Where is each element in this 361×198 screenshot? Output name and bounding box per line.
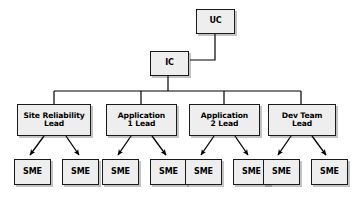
node-uc-label: UC	[209, 17, 221, 25]
node-sme-4[interactable]: SME	[150, 159, 187, 185]
node-sme-6-label: SME	[242, 168, 261, 176]
node-sme-3-label: SME	[111, 168, 130, 176]
node-uc[interactable]: UC	[196, 9, 235, 34]
node-sme-5[interactable]: SME	[185, 159, 222, 185]
node-sme-8[interactable]: SME	[311, 159, 348, 185]
node-sme-8-label: SME	[320, 168, 339, 176]
node-site-reliability-lead[interactable]: Site Reliability Lead	[17, 104, 91, 136]
node-application-2-lead[interactable]: Application 2 Lead	[189, 104, 260, 136]
node-sme-7[interactable]: SME	[263, 159, 300, 185]
node-sme-1[interactable]: SME	[14, 159, 51, 185]
node-sme-4-label: SME	[159, 168, 178, 176]
node-sme-2[interactable]: SME	[62, 159, 99, 185]
node-dev-team-lead-label: Dev Team Lead	[282, 112, 323, 128]
node-dev-team-lead[interactable]: Dev Team Lead	[268, 104, 336, 136]
node-sme-5-label: SME	[194, 168, 213, 176]
node-sme-3[interactable]: SME	[102, 159, 139, 185]
node-ic-label: IC	[165, 59, 174, 67]
node-ic[interactable]: IC	[150, 51, 189, 76]
org-chart-diagram: UC IC Site Reliability Lead Application …	[0, 0, 361, 198]
node-application-1-lead-label: Application 1 Lead	[118, 112, 165, 128]
edge-leads-to-smes	[30, 136, 326, 155]
node-sme-2-label: SME	[71, 168, 90, 176]
edge-ic-to-leads-bus	[54, 76, 301, 104]
edge-uc-to-ic	[190, 34, 215, 60]
node-site-reliability-lead-label: Site Reliability Lead	[23, 112, 84, 128]
node-sme-7-label: SME	[272, 168, 291, 176]
node-application-2-lead-label: Application 2 Lead	[201, 112, 248, 128]
node-sme-1-label: SME	[23, 168, 42, 176]
node-application-1-lead[interactable]: Application 1 Lead	[106, 104, 177, 136]
